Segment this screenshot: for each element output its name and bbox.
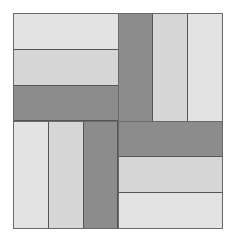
strip-dark [119, 122, 223, 157]
quadrant-top-right [119, 14, 223, 121]
strip-dark [119, 14, 153, 121]
strip-light1 [14, 14, 118, 49]
strip-light1 [14, 122, 48, 229]
strip-dark [84, 122, 118, 229]
strip-light2 [153, 14, 187, 121]
strip-dark [14, 86, 118, 121]
quilt-block [13, 13, 223, 229]
strip-light1 [119, 193, 223, 228]
strip-light2 [119, 157, 223, 192]
strip-light1 [188, 14, 222, 121]
quadrant-bottom-left [14, 122, 118, 229]
strip-light2 [49, 122, 83, 229]
strip-light2 [14, 50, 118, 85]
quadrant-top-left [14, 14, 118, 121]
quadrant-bottom-right [119, 122, 223, 229]
